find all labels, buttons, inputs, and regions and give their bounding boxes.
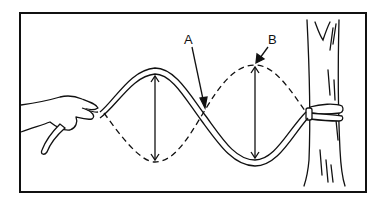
illustration: A B	[0, 0, 386, 202]
pointer-arrow-a	[192, 47, 207, 108]
rope-position-b-dashed	[104, 65, 306, 162]
rope-knot	[306, 104, 343, 121]
label-a: A	[184, 33, 193, 46]
pointer-arrow-b	[256, 47, 268, 63]
rope-wave-drawing	[0, 0, 386, 202]
tree-icon	[304, 20, 345, 186]
rope-tail	[41, 124, 65, 154]
label-b: B	[268, 33, 277, 46]
amplitude-arrow-left	[151, 76, 159, 160]
rope-position-a-solid	[100, 68, 308, 166]
amplitude-arrow-right	[251, 67, 259, 158]
